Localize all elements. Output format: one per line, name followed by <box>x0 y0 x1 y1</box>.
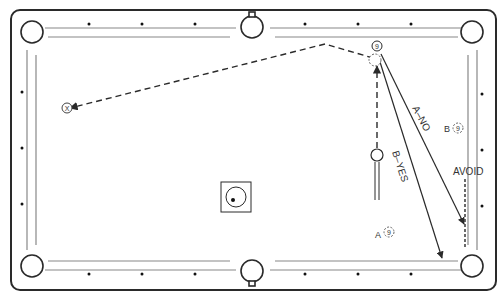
nine-ball-b: B 9 <box>444 123 463 134</box>
cue-ball-box <box>221 182 251 212</box>
svg-text:A: A <box>375 230 381 240</box>
pocket-bottom-left <box>21 255 43 277</box>
pocket-top-left <box>21 21 43 43</box>
cue-ball-dot <box>231 198 235 202</box>
table-outer-frame <box>11 10 496 290</box>
svg-text:9: 9 <box>456 125 460 132</box>
ghost-ball <box>369 54 381 66</box>
x-target-marker: X <box>62 103 72 113</box>
nine-ball-a: A 9 <box>375 227 394 240</box>
nine-ball-top: 9 <box>372 41 382 51</box>
label-avoid: AVOID <box>453 166 483 177</box>
svg-text:X: X <box>65 105 70 112</box>
svg-text:9: 9 <box>375 43 379 50</box>
pocket-bottom-right <box>461 255 483 277</box>
pockets <box>21 12 483 286</box>
rail-lines <box>27 28 477 270</box>
pool-table-diagram: 9 A 9 B 9 X A–NO B–YES AVOID <box>0 0 504 297</box>
cue-stick <box>375 162 379 200</box>
pocket-top-middle <box>241 16 263 38</box>
label-b-yes: B–YES <box>390 149 411 183</box>
object-ball <box>371 149 383 161</box>
dashed-bank-path <box>70 44 373 108</box>
diamonds <box>21 23 484 276</box>
label-a-no: A–NO <box>410 104 433 133</box>
pocket-top-right <box>461 21 483 43</box>
path-a-no <box>381 54 464 224</box>
svg-text:9: 9 <box>387 229 391 236</box>
pocket-bottom-middle <box>241 260 263 282</box>
svg-text:B: B <box>444 124 450 134</box>
